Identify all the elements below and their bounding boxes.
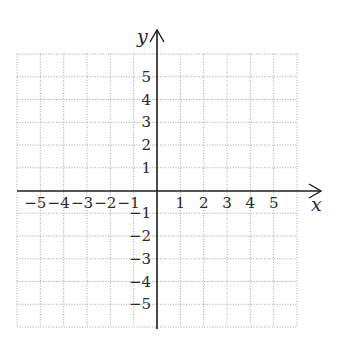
x-tick-label: −2 bbox=[94, 194, 116, 212]
y-tick-label: −3 bbox=[129, 250, 151, 268]
coordinate-plane: −5−4−3−2−11234554321−1−2−3−4−5 x y bbox=[0, 0, 345, 339]
x-tick-label: 5 bbox=[269, 194, 279, 212]
y-tick-label: 5 bbox=[141, 68, 151, 86]
y-tick-label: 1 bbox=[141, 159, 151, 177]
y-tick-label: −5 bbox=[129, 295, 151, 313]
x-axis-label: x bbox=[311, 193, 322, 215]
x-tick-label: 2 bbox=[199, 194, 209, 212]
y-tick-label: −4 bbox=[129, 273, 151, 291]
x-tick-label: 1 bbox=[176, 194, 186, 212]
x-tick-label: 4 bbox=[246, 194, 256, 212]
y-tick-label: −1 bbox=[129, 204, 151, 222]
y-tick-label: −2 bbox=[129, 227, 151, 245]
x-tick-label: −5 bbox=[24, 194, 46, 212]
x-tick-label: 3 bbox=[222, 194, 232, 212]
x-tick-label: −3 bbox=[71, 194, 93, 212]
plot-area: −5−4−3−2−11234554321−1−2−3−4−5 x y bbox=[0, 0, 345, 339]
y-tick-label: 2 bbox=[141, 136, 151, 154]
x-tick-label: −4 bbox=[48, 194, 70, 212]
y-tick-label: 4 bbox=[141, 91, 151, 109]
y-tick-label: 3 bbox=[141, 113, 151, 131]
y-axis-label: y bbox=[136, 25, 148, 47]
axes bbox=[17, 30, 321, 329]
